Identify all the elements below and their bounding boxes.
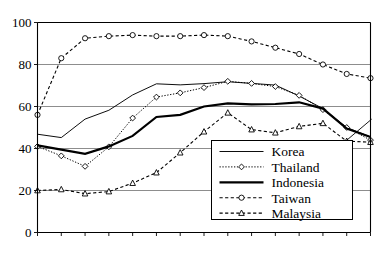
legend-label-thailand: Thailand bbox=[272, 160, 320, 175]
marker-malaysia-1993 bbox=[225, 110, 231, 115]
annotation-leader-line bbox=[343, 119, 372, 143]
y-axis-tick-labels: 020406080100 bbox=[12, 15, 32, 240]
marker-thailand-1992 bbox=[201, 85, 207, 91]
legend-label-taiwan: Taiwan bbox=[272, 191, 312, 206]
marker-thailand-1987 bbox=[82, 163, 88, 169]
marker-taiwan-1988 bbox=[106, 34, 111, 39]
marker-taiwan-1996 bbox=[297, 51, 302, 56]
series-line-taiwan bbox=[38, 35, 371, 115]
y-tick-label-20: 20 bbox=[19, 183, 32, 198]
marker-taiwan-1990 bbox=[154, 34, 159, 39]
y-tick-label-100: 100 bbox=[12, 15, 32, 30]
marker-malaysia-1989 bbox=[130, 180, 136, 185]
marker-thailand-1991 bbox=[177, 90, 183, 96]
legend-label-malaysia: Malaysia bbox=[272, 206, 322, 221]
marker-taiwan-1994 bbox=[249, 39, 254, 44]
marker-malaysia-1986 bbox=[58, 186, 64, 191]
y-tick-label-60: 60 bbox=[19, 99, 32, 114]
marker-taiwan-1993 bbox=[225, 34, 230, 39]
chart-legend[interactable]: KoreaThailandIndonesiaTaiwanMalaysia bbox=[212, 141, 353, 221]
legend-label-indonesia: Indonesia bbox=[272, 175, 324, 190]
marker-taiwan-1987 bbox=[82, 36, 87, 41]
marker-taiwan-1992 bbox=[201, 33, 206, 38]
y-tick-label-80: 80 bbox=[19, 57, 32, 72]
leader-line bbox=[343, 119, 372, 143]
marker-taiwan-1991 bbox=[178, 34, 183, 39]
y-tick-label-40: 40 bbox=[19, 141, 32, 156]
line-chart: 020406080100 198519871989199119931995199… bbox=[0, 0, 387, 278]
chart-canvas: 020406080100 198519871989199119931995199… bbox=[0, 0, 387, 278]
marker-taiwan-1989 bbox=[130, 33, 135, 38]
legend-marker-taiwan bbox=[239, 195, 244, 200]
marker-thailand-1994 bbox=[249, 81, 255, 87]
series-taiwan bbox=[35, 33, 373, 118]
legend-label-korea: Korea bbox=[272, 144, 305, 159]
marker-malaysia-1997 bbox=[320, 120, 326, 125]
marker-thailand-1986 bbox=[58, 153, 64, 159]
marker-malaysia-1992 bbox=[201, 129, 207, 134]
marker-malaysia-1996 bbox=[296, 123, 302, 128]
marker-taiwan-1986 bbox=[59, 56, 64, 61]
y-tick-label-0: 0 bbox=[25, 225, 32, 240]
marker-thailand-1993 bbox=[225, 78, 231, 84]
marker-taiwan-1995 bbox=[273, 45, 278, 50]
marker-taiwan-1997 bbox=[320, 62, 325, 67]
marker-malaysia-1994 bbox=[249, 127, 255, 132]
marker-taiwan-1998 bbox=[344, 71, 349, 76]
